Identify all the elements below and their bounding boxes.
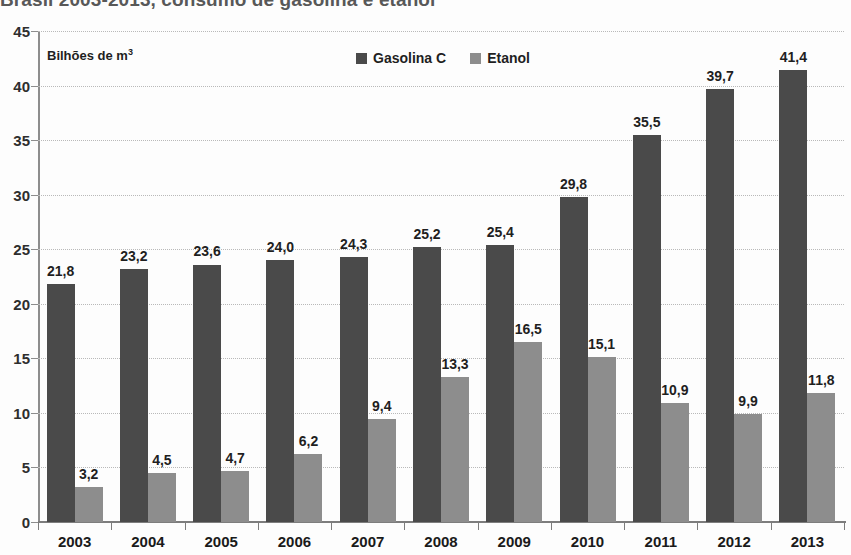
x-axis-tick	[38, 521, 39, 530]
x-axis-label-2003: 2003	[58, 533, 91, 550]
y-axis-label: 0	[0, 514, 30, 531]
bar-gasolina-c-2005	[193, 265, 221, 523]
axis-unit-caption: Bilhões de m3	[47, 47, 133, 63]
bar-value-label: 4,5	[152, 452, 171, 468]
bar-value-label: 21,8	[47, 263, 74, 279]
bar-value-label: 13,3	[441, 356, 468, 372]
x-axis-label-2005: 2005	[204, 533, 237, 550]
y-axis-label: 30	[0, 186, 30, 203]
bar-value-label: 23,2	[120, 248, 147, 264]
x-axis-label-2012: 2012	[717, 533, 750, 550]
legend-label: Gasolina C	[373, 50, 446, 66]
bar-value-label: 16,5	[515, 321, 542, 337]
bar-gasolina-c-2013	[779, 70, 807, 522]
y-axis-label: 5	[0, 459, 30, 476]
bar-gasolina-c-2007	[340, 257, 368, 522]
bar-gasolina-c-2009	[486, 245, 514, 522]
bar-gasolina-c-2012	[706, 89, 734, 522]
axis-unit-text: Bilhões de m	[47, 48, 128, 63]
bar-value-label: 24,0	[267, 239, 294, 255]
x-axis-tick	[331, 521, 332, 530]
bar-etanol-2004	[148, 473, 176, 522]
y-axis-label: 35	[0, 132, 30, 149]
bar-etanol-2012	[734, 414, 762, 522]
legend-swatch-icon	[356, 53, 367, 64]
bar-value-label: 3,2	[79, 466, 98, 482]
x-axis-tick	[771, 521, 772, 530]
bar-etanol-2005	[221, 471, 249, 522]
y-axis-label: 45	[0, 23, 30, 40]
gridline	[38, 31, 844, 32]
bar-value-label: 9,9	[738, 393, 757, 409]
bar-value-label: 4,7	[225, 450, 244, 466]
y-axis-tick	[31, 140, 38, 141]
x-axis-tick	[624, 521, 625, 530]
x-axis-tick	[404, 521, 405, 530]
bar-etanol-2007	[368, 419, 396, 522]
y-axis-tick	[31, 195, 38, 196]
chart-screenshot: Brasil 2003-2013, consumo de gasolina e …	[0, 0, 851, 555]
bar-value-label: 24,3	[340, 236, 367, 252]
y-axis-tick	[31, 304, 38, 305]
x-axis-label-2013: 2013	[791, 533, 824, 550]
y-axis-tick	[31, 358, 38, 359]
y-axis-tick	[31, 86, 38, 87]
legend-swatch-icon	[470, 53, 481, 64]
x-axis-label-2008: 2008	[424, 533, 457, 550]
bar-etanol-2013	[807, 393, 835, 522]
x-axis-label-2011: 2011	[645, 533, 678, 550]
y-axis-label: 25	[0, 241, 30, 258]
bar-value-label: 41,4	[780, 49, 807, 65]
bar-etanol-2003	[75, 487, 103, 522]
bar-gasolina-c-2003	[47, 284, 75, 522]
y-axis-label: 40	[0, 77, 30, 94]
y-axis-label: 15	[0, 350, 30, 367]
bar-etanol-2010	[588, 357, 616, 522]
bar-gasolina-c-2010	[560, 197, 588, 522]
chart-legend: Gasolina CEtanol	[356, 50, 530, 66]
bar-etanol-2011	[661, 403, 689, 522]
x-axis-label-2009: 2009	[498, 533, 531, 550]
y-axis-tick	[31, 31, 38, 32]
gridline	[38, 86, 844, 87]
legend-item-etanol[interactable]: Etanol	[470, 50, 530, 66]
bar-etanol-2009	[514, 342, 542, 522]
plot-area: 21,83,223,24,523,64,724,06,224,39,425,21…	[38, 31, 844, 522]
bar-gasolina-c-2006	[266, 260, 294, 522]
bar-value-label: 25,2	[413, 226, 440, 242]
bar-value-label: 29,8	[560, 176, 587, 192]
y-axis-tick	[31, 467, 38, 468]
x-axis-tick	[478, 521, 479, 530]
x-axis-tick	[844, 521, 845, 530]
bar-gasolina-c-2008	[413, 247, 441, 522]
chart-title: Brasil 2003-2013, consumo de gasolina e …	[0, 0, 435, 11]
y-axis-tick	[31, 522, 38, 523]
y-axis-tick	[31, 249, 38, 250]
bar-value-label: 25,4	[487, 224, 514, 240]
bar-value-label: 39,7	[706, 68, 733, 84]
x-axis-label-2004: 2004	[131, 533, 164, 550]
legend-item-gasolina-c[interactable]: Gasolina C	[356, 50, 446, 66]
x-axis-tick	[258, 521, 259, 530]
bar-value-label: 23,6	[194, 243, 221, 259]
x-axis-label-2007: 2007	[351, 533, 384, 550]
x-axis-tick	[111, 521, 112, 530]
bar-value-label: 11,8	[808, 372, 834, 388]
bar-value-label: 10,9	[661, 382, 688, 398]
x-axis-tick	[551, 521, 552, 530]
legend-label: Etanol	[487, 50, 530, 66]
y-axis-tick	[31, 413, 38, 414]
bar-value-label: 6,2	[299, 433, 318, 449]
bar-gasolina-c-2004	[120, 269, 148, 522]
y-axis-label: 10	[0, 404, 30, 421]
bar-etanol-2006	[294, 454, 322, 522]
x-axis-tick	[697, 521, 698, 530]
x-axis-label-2010: 2010	[571, 533, 604, 550]
x-axis-tick	[185, 521, 186, 530]
bar-value-label: 15,1	[588, 336, 615, 352]
y-axis-labels: 051015202530354045	[0, 0, 30, 555]
bar-value-label: 35,5	[633, 114, 660, 130]
bar-gasolina-c-2011	[633, 135, 661, 522]
bar-etanol-2008	[441, 377, 469, 522]
y-axis-label: 20	[0, 295, 30, 312]
